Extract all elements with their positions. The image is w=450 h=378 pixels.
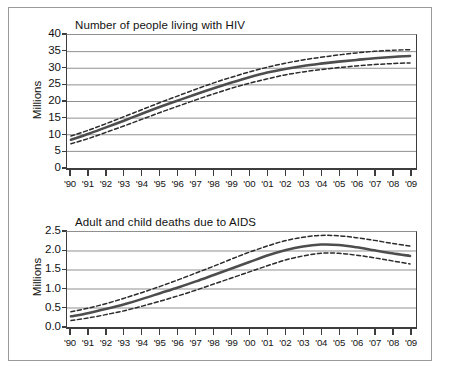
x-axis-tick-label: '05 — [333, 178, 345, 189]
x-axis-tick-label: '91 — [82, 337, 94, 348]
x-axis-tick-mark — [141, 170, 142, 176]
x-axis-tick-label: '03 — [297, 337, 309, 348]
x-axis-tick-label: '95 — [154, 337, 166, 348]
x-axis-tick-label: '94 — [136, 178, 148, 189]
x-axis-tick-label: '08 — [387, 337, 399, 348]
x-axis-tick-mark — [69, 329, 70, 335]
chart-panel-aids: Adult and child deaths due to AIDS Milli… — [9, 213, 433, 358]
x-axis-tick-label: '09 — [405, 337, 417, 348]
x-axis-tick-label: '92 — [100, 337, 112, 348]
chart-title-hiv: Number of people living with HIV — [75, 19, 245, 31]
x-axis-tick-mark — [159, 170, 160, 176]
x-axis-tick-label: '00 — [243, 337, 255, 348]
x-axis-tick-label: '92 — [100, 178, 112, 189]
x-axis-tick-label: '99 — [225, 337, 237, 348]
x-axis-tick-label: '06 — [351, 337, 363, 348]
x-axis-tick-label: '04 — [315, 337, 327, 348]
x-axis-tick-mark — [303, 329, 304, 335]
y-axis-tick-labels-aids: 0.00.51.01.52.02.5 — [9, 213, 61, 347]
y-axis-tick-label: 0.5 — [9, 302, 61, 314]
x-axis-tick-mark — [105, 170, 106, 176]
x-axis-line — [66, 168, 417, 170]
x-axis-tick-label: '04 — [315, 178, 327, 189]
x-axis-tick-label: '00 — [243, 178, 255, 189]
x-axis-tick-label: '06 — [351, 178, 363, 189]
x-axis-tick-mark — [339, 170, 340, 176]
x-axis-tick-label: '09 — [405, 178, 417, 189]
x-axis-tick-mark — [321, 329, 322, 335]
x-axis-tick-mark — [123, 170, 124, 176]
x-axis-tick-label: '96 — [172, 337, 184, 348]
x-axis-tick-label: '07 — [369, 337, 381, 348]
x-axis-tick-mark — [141, 329, 142, 335]
y-axis-tick-label: 2.0 — [9, 244, 61, 256]
x-axis-tick-mark — [87, 170, 88, 176]
x-axis-tick-label: '02 — [279, 178, 291, 189]
y-axis-tick-label: 30 — [9, 62, 61, 74]
x-axis-tick-mark — [231, 329, 232, 335]
plot-svg-hiv — [67, 35, 416, 168]
x-axis-tick-mark — [374, 329, 375, 335]
plot-area-hiv — [66, 34, 417, 168]
y-axis-tick-label: 35 — [9, 45, 61, 57]
x-axis-tick-label: '07 — [369, 178, 381, 189]
x-axis-tick-mark — [339, 329, 340, 335]
x-axis-tick-label: '05 — [333, 337, 345, 348]
x-axis-tick-mark — [392, 170, 393, 176]
x-axis-tick-mark — [357, 170, 358, 176]
x-axis-tick-mark — [267, 170, 268, 176]
x-axis-tick-label: '90 — [64, 178, 76, 189]
x-axis-tick-mark — [410, 170, 411, 176]
x-axis-tick-label: '98 — [207, 178, 219, 189]
x-axis-tick-label: '91 — [82, 178, 94, 189]
y-axis-tick-label: 2.5 — [9, 225, 61, 237]
x-axis-tick-mark — [249, 170, 250, 176]
x-axis-tick-label: '08 — [387, 178, 399, 189]
x-axis-tick-mark — [195, 170, 196, 176]
x-axis-tick-mark — [87, 329, 88, 335]
x-axis-tick-mark — [321, 170, 322, 176]
y-axis-tick-label: 20 — [9, 95, 61, 107]
x-axis-tick-label: '02 — [279, 337, 291, 348]
x-axis-tick-mark — [249, 329, 250, 335]
x-axis-tick-mark — [177, 170, 178, 176]
x-axis-tick-label: '93 — [118, 337, 130, 348]
x-axis-tick-label: '01 — [261, 337, 273, 348]
x-axis-tick-label: '97 — [190, 178, 202, 189]
x-axis-tick-label: '90 — [64, 337, 76, 348]
x-axis-tick-mark — [105, 329, 106, 335]
x-axis-line — [66, 327, 417, 329]
x-axis-tick-mark — [213, 170, 214, 176]
x-axis-tick-mark — [374, 170, 375, 176]
x-axis-tick-label: '99 — [225, 178, 237, 189]
y-axis-tick-label: 40 — [9, 28, 61, 40]
y-axis-tick-labels-hiv: 0510152025303540 — [9, 16, 61, 188]
x-axis-tick-mark — [357, 329, 358, 335]
x-axis-tick-mark — [285, 170, 286, 176]
x-axis-tick-label: '98 — [207, 337, 219, 348]
x-axis-tick-label: '03 — [297, 178, 309, 189]
x-axis-tick-mark — [69, 170, 70, 176]
x-axis-tick-label: '94 — [136, 337, 148, 348]
plot-svg-aids — [67, 232, 416, 327]
x-axis-tick-label: '95 — [154, 178, 166, 189]
x-axis-tick-mark — [392, 329, 393, 335]
data-series-line — [71, 50, 410, 136]
x-axis-tick-mark — [195, 329, 196, 335]
x-axis-tick-mark — [177, 329, 178, 335]
x-axis-tick-label: '96 — [172, 178, 184, 189]
x-axis-tick-mark — [303, 170, 304, 176]
x-axis-tick-label: '93 — [118, 178, 130, 189]
y-axis-tick-label: 1.5 — [9, 264, 61, 276]
y-axis-tick-label: 0.0 — [9, 321, 61, 333]
figure-frame: Number of people living with HIV Million… — [8, 7, 432, 361]
y-axis-tick-label: 15 — [9, 112, 61, 124]
x-axis-tick-mark — [213, 329, 214, 335]
y-axis-tick-label: 25 — [9, 79, 61, 91]
y-axis-tick-label: 1.0 — [9, 283, 61, 295]
data-series-line — [71, 253, 410, 321]
y-axis-tick-label: 10 — [9, 129, 61, 141]
x-axis-tick-label: '97 — [190, 337, 202, 348]
chart-panel-hiv: Number of people living with HIV Million… — [9, 16, 433, 196]
x-axis-tick-label: '01 — [261, 178, 273, 189]
